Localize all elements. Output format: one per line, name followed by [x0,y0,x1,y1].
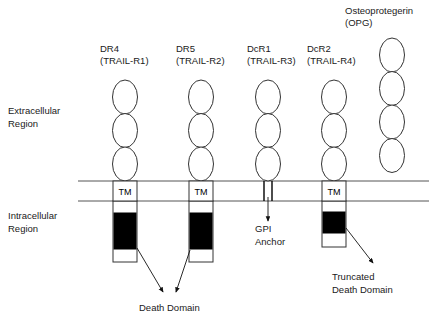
crd-ellipse-opg-3 [380,105,405,139]
annotation-label-death-domain-line1: Death Domain [139,302,200,313]
receptor-name-dr4: DR4 [100,43,119,54]
tm-label-dr4: TM [119,187,132,197]
receptor-name-dr5: DR5 [176,43,195,54]
receptor-name-dcr2: DcR2 [307,43,331,54]
death-domain-dcr2 [323,212,345,233]
crd-ellipse-dr4-1 [113,80,138,114]
crd-ellipse-opg-1 [380,38,405,72]
crd-ellipse-dcr1-3 [256,147,281,181]
tm-label-dr5: TM [195,187,208,197]
receptor-name-opg: Osteoprotegerin [345,5,413,16]
region-label-line1: Extracellular [8,105,60,116]
crd-ellipse-dcr2-3 [322,147,347,181]
receptor-name-dcr1: DcR1 [247,43,271,54]
region-label-line2: Region [8,223,38,234]
receptor-altname-dr4: (TRAIL-R1) [100,55,149,66]
receptor-altname-dcr1: (TRAIL-R3) [247,55,296,66]
crd-ellipse-dr5-1 [189,80,214,114]
crd-ellipse-dcr2-2 [322,114,347,148]
annotation-label-truncated-death-domain-line2: Death Domain [332,284,393,295]
death-domain-dr4 [114,213,136,249]
region-label-line1: Intracellular [8,210,57,221]
crd-ellipse-dr4-3 [113,147,138,181]
receptor-altname-dr5: (TRAIL-R2) [176,55,225,66]
crd-ellipse-dr5-2 [189,114,214,148]
crd-ellipse-dr4-2 [113,114,138,148]
crd-ellipse-dr5-3 [189,147,214,181]
crd-ellipse-dcr2-1 [322,80,347,114]
trail-receptor-diagram: ExtracellularRegionIntracellularRegion D… [0,0,429,322]
crd-ellipse-opg-2 [380,72,405,106]
receptor-altname-opg: (OPG) [345,17,372,28]
receptor-altname-dcr2: (TRAIL-R4) [307,55,356,66]
annotation-label-truncated-death-domain-line1: Truncated [332,271,374,282]
annotation-label-gpi-anchor-line2: Anchor [255,236,285,247]
annotation-label-gpi-anchor-line1: GPI [255,223,271,234]
death-domain-dr5 [190,213,212,249]
region-label-line2: Region [8,118,38,129]
crd-ellipse-dcr1-2 [256,114,281,148]
crd-ellipse-opg-4 [380,139,405,173]
crd-ellipse-dcr1-1 [256,80,281,114]
tm-label-dcr2: TM [328,187,341,197]
